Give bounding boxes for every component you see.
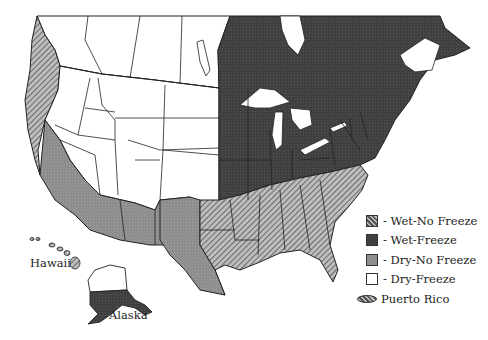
puerto-rico-marker: Puerto Rico [357,292,449,306]
legend: - Wet-No Freeze - Wet-Freeze - Dry-No Fr… [366,211,477,289]
legend-item-wet-no-freeze: - Wet-No Freeze [366,211,477,231]
puerto-rico-label: Puerto Rico [381,292,449,306]
dark-swatch-icon [366,234,378,246]
hawaii-label: Hawaii [30,256,71,270]
hatched-swatch-icon [366,215,378,227]
legend-item-dry-no-freeze: - Dry-No Freeze [366,250,477,270]
legend-item-wet-freeze: - Wet-Freeze [366,231,477,251]
alaska-label: Alaska [109,308,148,322]
puerto-rico-shape-icon [357,295,377,303]
white-swatch-icon [366,273,378,285]
legend-item-dry-freeze: - Dry-Freeze [366,270,477,290]
legend-label: - Dry-Freeze [383,272,456,286]
legend-label: - Wet-No Freeze [383,214,477,228]
legend-label: - Wet-Freeze [383,233,457,247]
climate-zone-map [0,0,488,340]
gray-swatch-icon [366,254,378,266]
legend-label: - Dry-No Freeze [383,253,476,267]
